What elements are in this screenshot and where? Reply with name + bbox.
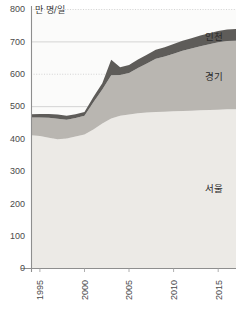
series-label-경기: 경기 bbox=[205, 71, 223, 82]
x-tick-label: 2015 bbox=[214, 280, 224, 300]
y-tick-label: 200 bbox=[10, 199, 25, 209]
area-chart: 0100200300400500600700800 19952000200520… bbox=[0, 0, 242, 317]
y-axis-tick-labels: 0100200300400500600700800 bbox=[10, 4, 25, 273]
x-tick-label: 2000 bbox=[80, 280, 90, 300]
y-tick-label: 600 bbox=[10, 69, 25, 79]
y-tick-label: 300 bbox=[10, 166, 25, 176]
x-tick-label: 1995 bbox=[35, 280, 45, 300]
y-tick-label: 500 bbox=[10, 101, 25, 111]
x-tick-label: 2010 bbox=[169, 280, 179, 300]
y-tick-label: 0 bbox=[20, 263, 25, 273]
y-tick-label: 700 bbox=[10, 37, 25, 47]
chart-canvas: 0100200300400500600700800 19952000200520… bbox=[0, 0, 242, 317]
y-tick-label: 800 bbox=[10, 4, 25, 14]
y-tick-label: 400 bbox=[10, 134, 25, 144]
x-tick-label: 2005 bbox=[124, 280, 134, 300]
series-label-서울: 서울 bbox=[205, 183, 223, 194]
series-label-인천: 인천 bbox=[205, 31, 223, 42]
y-tick-label: 100 bbox=[10, 231, 25, 241]
y-axis-unit-label: 만 명/일 bbox=[35, 5, 65, 15]
